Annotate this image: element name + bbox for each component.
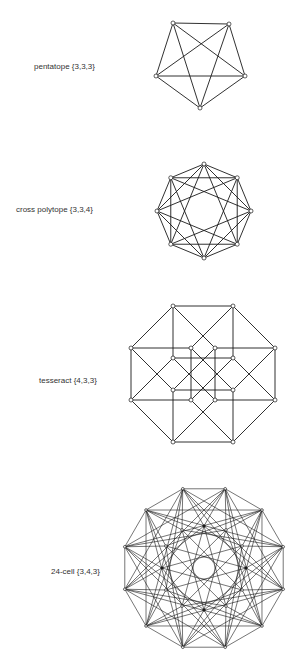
cross-polytope-graph [155, 162, 253, 260]
polytope-diagrams [0, 0, 303, 662]
tesseract-graph [129, 304, 277, 444]
24-cell-graph [123, 487, 284, 648]
pentatope-graph [154, 21, 247, 110]
